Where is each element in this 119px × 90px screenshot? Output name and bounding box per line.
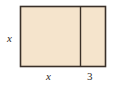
rectangle-outline [21,7,106,67]
height-label: x [7,33,12,44]
rectangle-diagram-svg [0,0,119,90]
right-width-label: 3 [87,71,93,82]
geometry-figure: x x 3 [0,0,119,90]
left-width-label: x [46,71,51,82]
